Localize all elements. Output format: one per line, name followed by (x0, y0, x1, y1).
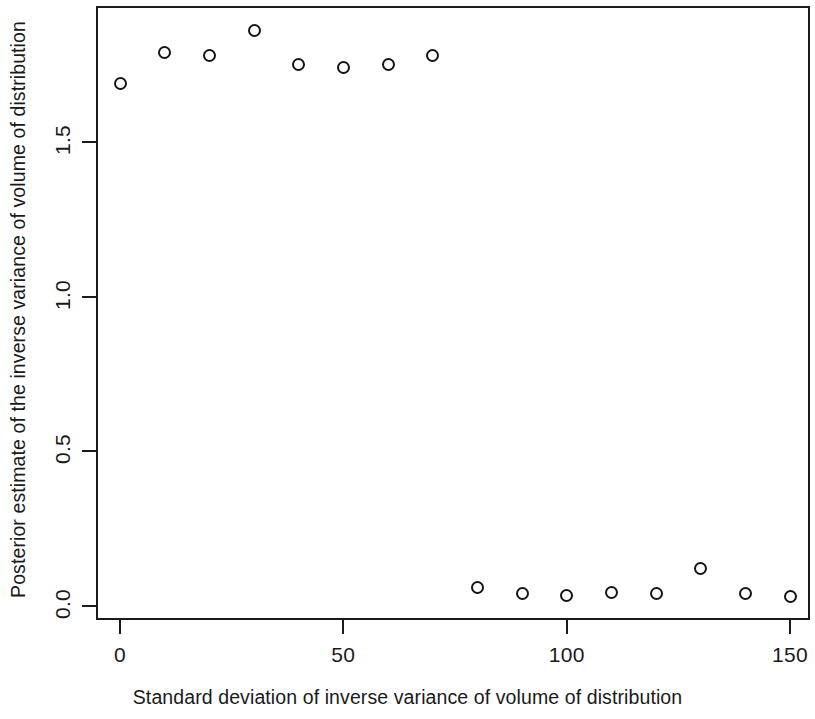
x-axis-tick-label: 0 (114, 643, 126, 667)
x-axis-tick (119, 620, 121, 634)
x-axis-tick (789, 620, 791, 634)
x-axis-tick-label: 100 (549, 643, 585, 667)
y-axis-tick (82, 450, 96, 452)
y-axis-tick-label: 0.0 (0, 592, 78, 616)
y-axis-title-text: Posterior estimate of the inverse varian… (7, 21, 30, 598)
y-axis-tick-label: 0.5 (0, 437, 78, 461)
y-axis-tick-label-text: 0.0 (51, 589, 75, 619)
y-axis-tick-label-text: 1.5 (51, 125, 75, 155)
plot-area-frame (96, 6, 810, 620)
y-axis-tick-label-text: 0.5 (51, 434, 75, 464)
y-axis-tick (82, 605, 96, 607)
x-axis-tick (342, 620, 344, 634)
x-axis-tick-label: 150 (772, 643, 808, 667)
y-axis-tick-label: 1.0 (0, 283, 78, 307)
y-axis-tick (82, 296, 96, 298)
x-axis-title-text: Standard deviation of inverse variance o… (133, 686, 682, 708)
y-axis-tick-label: 1.5 (0, 128, 78, 152)
x-axis-tick (566, 620, 568, 634)
x-axis-tick-label: 50 (331, 643, 355, 667)
y-axis-title: Posterior estimate of the inverse varian… (0, 0, 36, 619)
x-axis-title: Standard deviation of inverse variance o… (0, 686, 815, 709)
y-axis-tick (82, 141, 96, 143)
scatter-plot-figure: Posterior estimate of the inverse varian… (0, 0, 815, 719)
y-axis-tick-label-text: 1.0 (51, 280, 75, 310)
